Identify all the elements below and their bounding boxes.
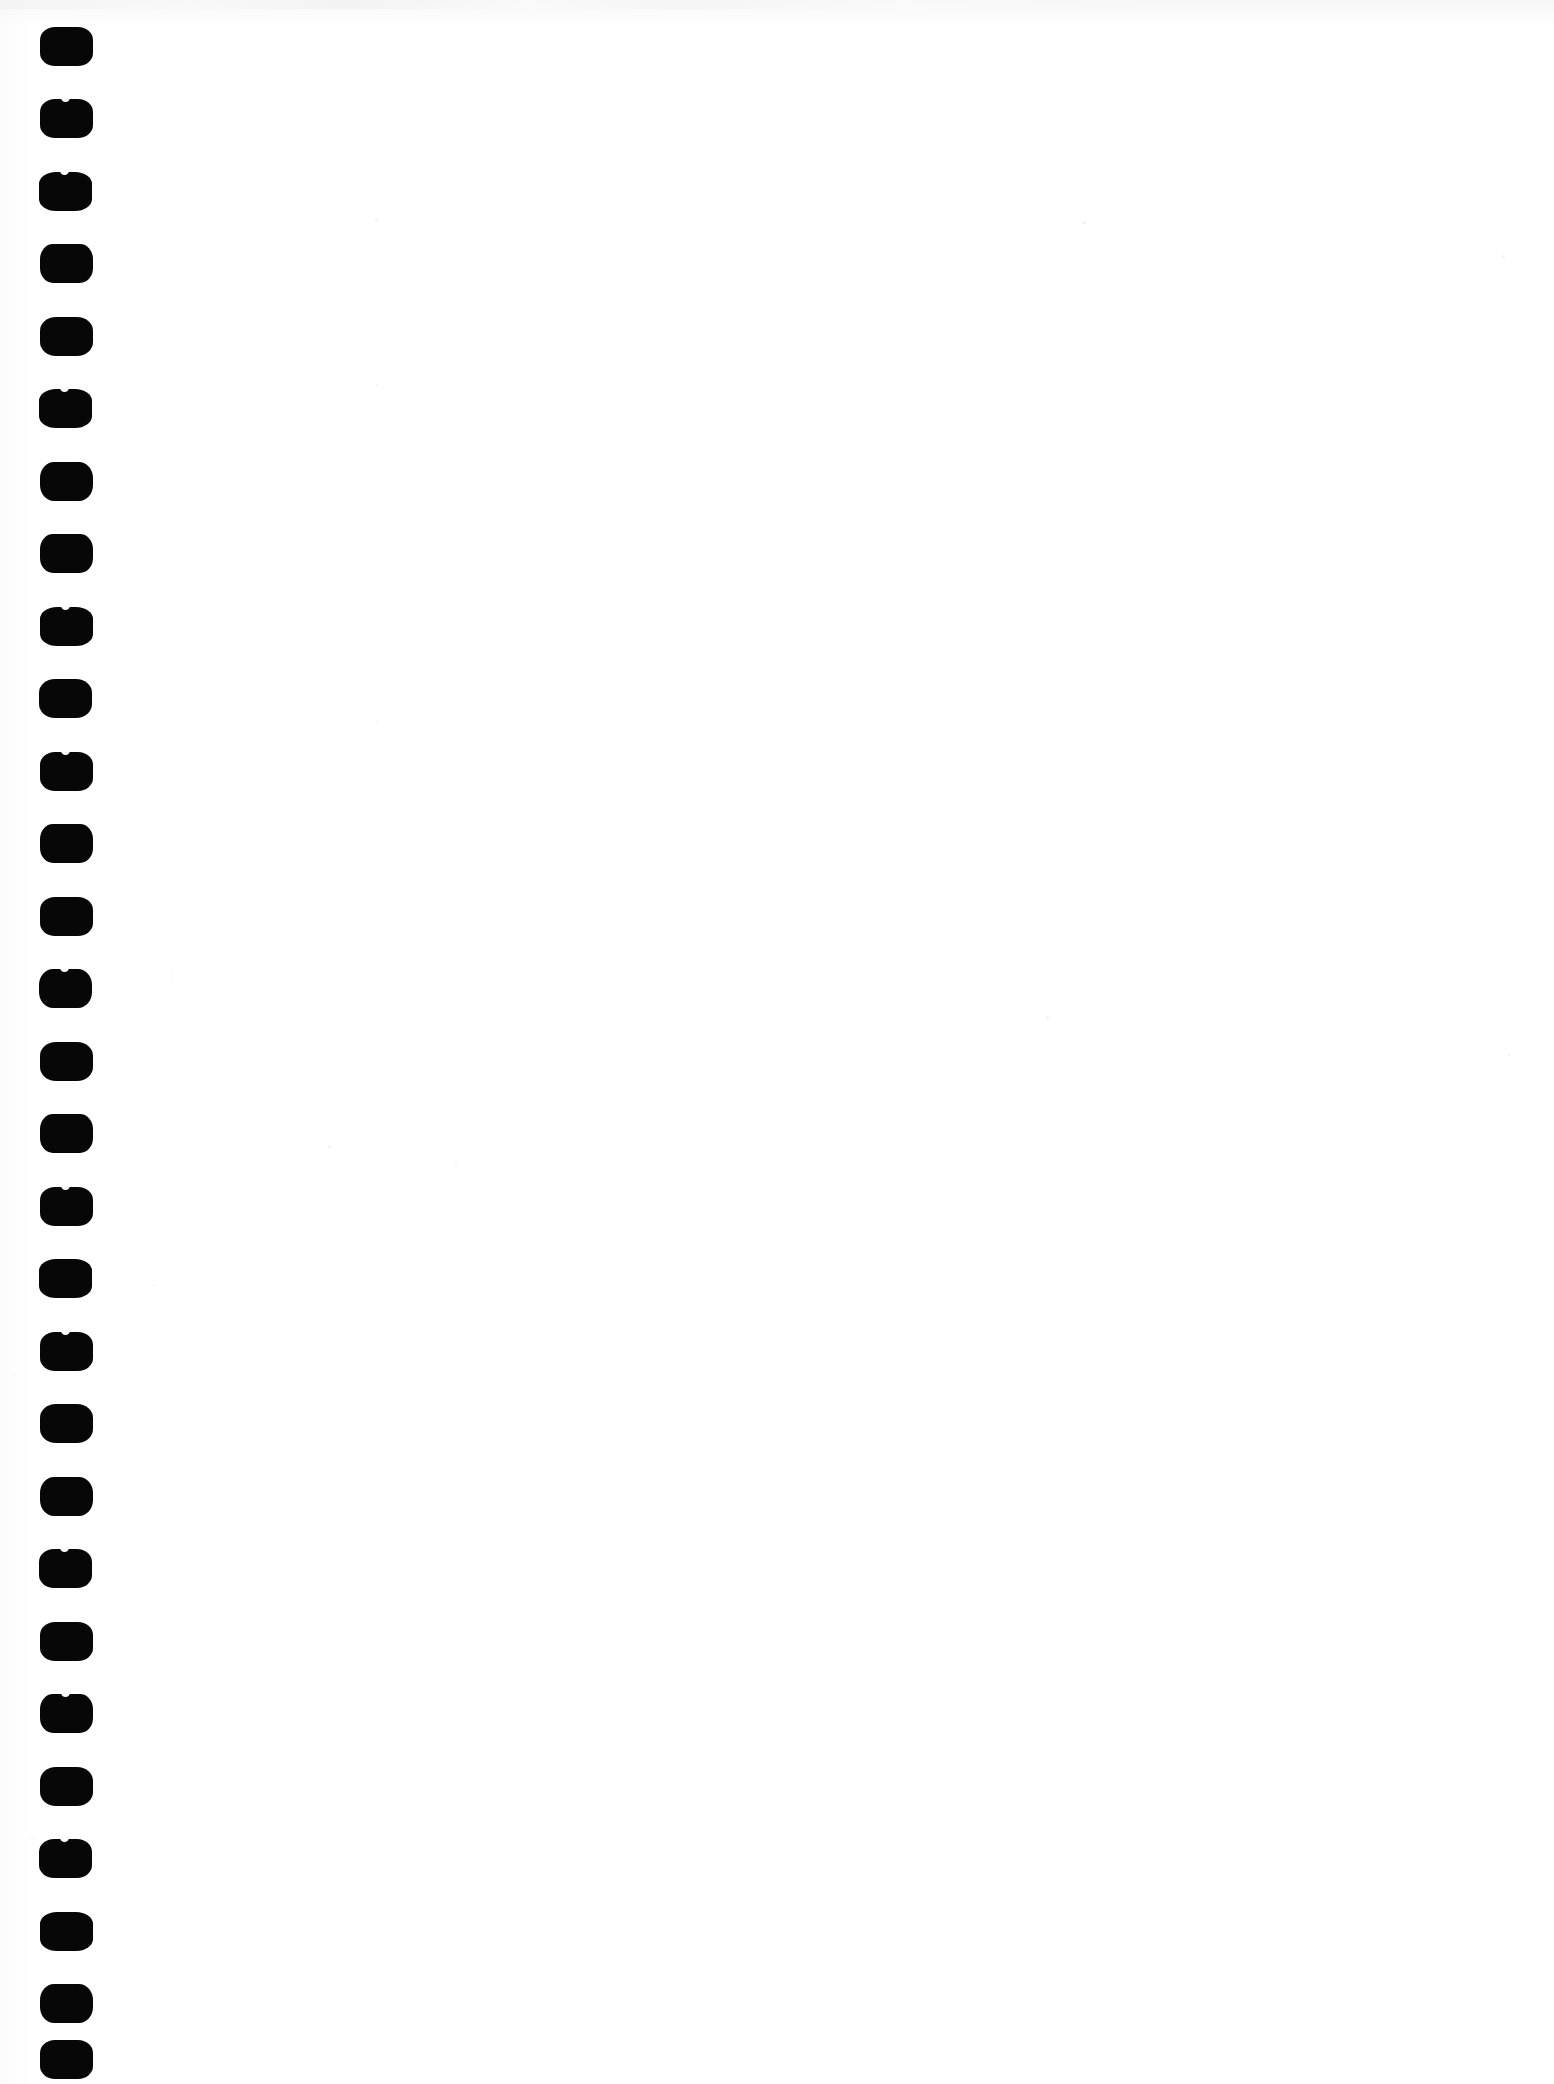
binding-hole [40, 1912, 93, 1951]
page-body-text [150, 40, 1530, 2050]
binding-hole [40, 1622, 93, 1661]
binding-hole [40, 2040, 93, 2079]
binding-hole [40, 1694, 93, 1733]
binding-hole [39, 1259, 92, 1298]
binding-hole-nick [61, 605, 70, 610]
binding-hole [40, 824, 93, 863]
binding-hole [39, 1839, 92, 1878]
binding-hole-nick [60, 967, 69, 972]
binding-hole [40, 897, 93, 936]
binding-hole [40, 534, 93, 573]
binding-hole-nick [60, 170, 69, 175]
binding-hole [40, 244, 93, 283]
binding-hole-nick [61, 750, 70, 755]
binding-hole-column [0, 0, 130, 2084]
binding-hole [39, 969, 92, 1008]
binding-hole [40, 1114, 93, 1153]
binding-hole-nick [61, 1692, 70, 1697]
scanned-page [0, 0, 1554, 2084]
binding-hole [40, 1767, 93, 1806]
binding-hole [40, 1477, 93, 1516]
binding-hole [40, 1187, 93, 1226]
binding-hole [40, 317, 93, 356]
binding-hole [39, 1549, 92, 1588]
binding-hole-nick [60, 387, 69, 392]
binding-hole [39, 389, 92, 428]
scanner-edge-band [0, 0, 1554, 9]
binding-hole [40, 27, 93, 66]
binding-hole-nick [60, 1547, 69, 1552]
binding-hole [40, 1404, 93, 1443]
binding-hole [39, 172, 92, 211]
binding-hole-nick [61, 97, 70, 102]
binding-hole-nick [61, 1330, 70, 1335]
binding-hole [40, 1042, 93, 1081]
binding-hole-nick [60, 1837, 69, 1842]
binding-hole [40, 752, 93, 791]
binding-hole [40, 99, 93, 138]
binding-hole [40, 462, 93, 501]
binding-hole-nick [61, 1185, 70, 1190]
binding-hole [40, 1332, 93, 1371]
binding-hole [39, 679, 92, 718]
binding-hole [40, 1984, 93, 2023]
binding-hole [40, 607, 93, 646]
